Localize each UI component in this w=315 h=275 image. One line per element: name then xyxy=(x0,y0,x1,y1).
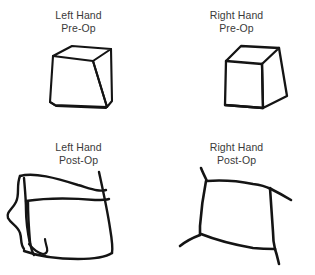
caption-line-hand: Left Hand xyxy=(0,9,157,22)
panel-left-hand-post-op: Left Hand Post-Op xyxy=(0,132,157,269)
square-with-overshoot-sketch-strokes xyxy=(180,168,291,264)
drawing-left-hand-post-op xyxy=(0,160,157,268)
drawing-left-hand-pre-op xyxy=(0,28,157,136)
caption-line-hand: Right Hand xyxy=(158,9,315,22)
distorted-square-sketch-strokes xyxy=(8,172,113,259)
caption-line-hand: Left Hand xyxy=(0,141,157,154)
drawing-right-hand-post-op xyxy=(158,160,315,268)
drawing-right-hand-pre-op xyxy=(158,28,315,136)
panel-right-hand-pre-op: Right Hand Pre-Op xyxy=(158,0,315,137)
cube-sketch-strokes xyxy=(225,46,287,108)
panel-left-hand-pre-op: Left Hand Pre-Op xyxy=(0,0,157,137)
caption-line-hand: Right Hand xyxy=(158,141,315,154)
cube-sketch-strokes xyxy=(50,46,112,108)
panel-right-hand-post-op: Right Hand Post-Op xyxy=(158,132,315,269)
hand-drawing-comparison-figure: Left Hand Pre-Op Right Hand Pre- xyxy=(0,0,315,275)
